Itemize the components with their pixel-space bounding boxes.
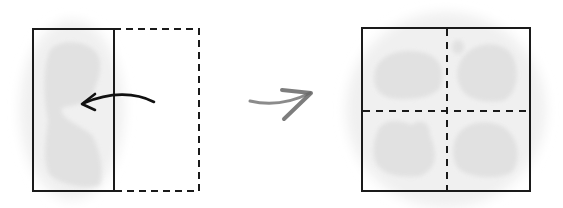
smudge-bottom-left <box>374 121 435 176</box>
left-panel-folded-rectangle <box>20 20 199 200</box>
right-panel-unfolded-square <box>346 12 546 208</box>
smudge-top-left <box>374 51 442 99</box>
transition-arrow-icon <box>250 90 311 119</box>
smudge-top-right-small <box>452 40 464 54</box>
unfolded-half-dashed <box>114 29 199 191</box>
fold-diagram <box>0 0 563 208</box>
